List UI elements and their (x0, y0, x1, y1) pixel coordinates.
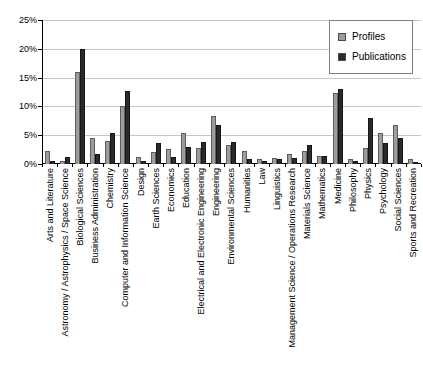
x-category-label: Sports and Recreation (408, 168, 419, 258)
x-category-label: Linguistics (271, 168, 282, 210)
x-tick-mark (300, 164, 301, 167)
x-tick-mark (72, 164, 73, 167)
x-tick-mark (163, 164, 164, 167)
x-category-label: Psychology (378, 168, 389, 214)
x-category-label: Engineering (211, 168, 222, 216)
bar-publications (413, 162, 418, 164)
x-tick-mark (118, 164, 119, 167)
legend: Profiles Publications (329, 20, 413, 74)
y-tick-label: 20% (5, 44, 37, 54)
x-category-label: Astronomy / Astrophysics / Space Science (59, 168, 70, 337)
bar-pair (105, 133, 115, 164)
category-slot: Earth Sciences (148, 20, 163, 164)
bar-pair (287, 154, 297, 164)
bar-pair (60, 157, 70, 164)
bar-pair (151, 143, 161, 164)
x-category-label: Economics (165, 168, 176, 212)
x-tick-mark (133, 164, 134, 167)
x-tick-mark (406, 164, 407, 167)
x-tick-mark (315, 164, 316, 167)
bar-publications (141, 161, 146, 164)
x-category-label: Physics (362, 168, 373, 199)
profiles-swatch-icon (338, 33, 346, 41)
x-tick-mark (330, 164, 331, 167)
x-tick-mark (87, 164, 88, 167)
category-slot: Management Science / Operations Research (285, 20, 300, 164)
x-tick-mark (421, 164, 422, 167)
bar-pair (90, 138, 100, 164)
category-slot: Electrical and Electronic Engineering (194, 20, 209, 164)
x-tick-mark (269, 164, 270, 167)
x-tick-mark (224, 164, 225, 167)
bar-pair (363, 118, 373, 164)
category-slot: Materials Science (300, 20, 315, 164)
bar-pair (408, 159, 418, 164)
x-category-label: Chemistry (105, 168, 116, 209)
x-tick-mark (391, 164, 392, 167)
bar-publications (201, 142, 206, 164)
bar-publications (125, 91, 130, 164)
x-category-label: Medicine (332, 168, 343, 204)
x-category-label: Management Science / Operations Research (287, 168, 298, 348)
y-tick-label: 0% (5, 159, 37, 169)
bar-publications (322, 156, 327, 164)
bar-pair (75, 49, 85, 164)
category-slot: Chemistry (103, 20, 118, 164)
legend-item-publications: Publications (338, 51, 406, 62)
x-category-label: Law (256, 168, 267, 185)
y-tick-label: 25% (5, 15, 37, 25)
bar-pair (211, 116, 221, 164)
category-slot: Engineering (209, 20, 224, 164)
bar-pair (378, 133, 388, 164)
x-category-label: Mathematics (317, 168, 328, 219)
bar-pair (393, 125, 403, 164)
bar-publications (156, 143, 161, 164)
bar-publications (307, 145, 312, 164)
x-category-label: Arts and Literature (44, 168, 55, 242)
bar-publications (231, 142, 236, 164)
bar-publications (353, 161, 358, 164)
category-slot: Linguistics (269, 20, 284, 164)
category-slot: Humanities (239, 20, 254, 164)
legend-label: Profiles (352, 31, 385, 42)
bar-publications (292, 158, 297, 164)
bar-publications (50, 161, 55, 164)
bar-publications (216, 125, 221, 164)
bar-pair (333, 89, 343, 164)
category-slot: Biological Sciences (72, 20, 87, 164)
legend-item-profiles: Profiles (338, 31, 406, 42)
category-slot: Economics (163, 20, 178, 164)
x-tick-mark (209, 164, 210, 167)
x-category-label: Electrical and Electronic Engineering (196, 168, 207, 315)
y-tick-label: 15% (5, 73, 37, 83)
x-tick-mark (345, 164, 346, 167)
x-tick-mark (194, 164, 195, 167)
bar-pair (348, 159, 358, 164)
x-tick-mark (148, 164, 149, 167)
category-slot: Environmental Sciences (224, 20, 239, 164)
x-tick-mark (103, 164, 104, 167)
bar-publications (110, 133, 115, 164)
x-tick-mark (178, 164, 179, 167)
bar-pair (136, 157, 146, 164)
bar-publications (383, 143, 388, 164)
bar-publications (95, 154, 100, 164)
bar-pair (317, 156, 327, 164)
x-category-label: Biological Sciences (74, 168, 85, 246)
bar-pair (272, 158, 282, 164)
publications-swatch-icon (338, 53, 346, 61)
bar-pair (196, 142, 206, 164)
x-category-label: Education (180, 168, 191, 208)
bar-chart: 0%5%10%15%20%25% Arts and LiteratureAstr… (0, 0, 423, 368)
legend-label: Publications (352, 51, 406, 62)
y-tick-label: 10% (5, 101, 37, 111)
category-slot: Design (133, 20, 148, 164)
category-slot: Arts and Literature (42, 20, 57, 164)
category-slot: Astronomy / Astrophysics / Space Science (57, 20, 72, 164)
bar-pair (120, 91, 130, 164)
x-category-label: Computer and Information Science (120, 168, 131, 307)
x-tick-mark (42, 164, 43, 167)
x-tick-mark (285, 164, 286, 167)
bar-pair (181, 133, 191, 164)
bar-publications (186, 147, 191, 164)
